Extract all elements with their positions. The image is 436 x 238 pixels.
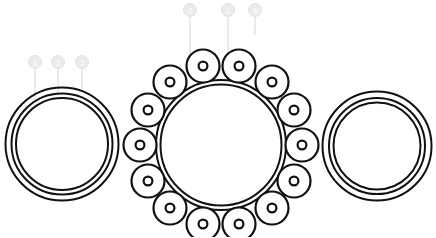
roller-10[interactable] (132, 165, 165, 198)
roller-12[interactable] (132, 94, 165, 127)
callout-label-1: 1 (32, 58, 37, 68)
roller-2[interactable] (256, 66, 289, 99)
bearing-diagram-root: 123456 (0, 0, 436, 237)
right-race-ring-3[interactable] (334, 103, 421, 190)
roller-4[interactable] (286, 129, 319, 162)
inner-race-ring-1[interactable] (156, 80, 286, 210)
roller-bore-9 (166, 204, 175, 213)
roller-element-group[interactable] (124, 50, 319, 238)
roller-9[interactable] (154, 192, 187, 225)
callout-label-2: 2 (55, 58, 60, 68)
callout-3[interactable]: 3 (76, 56, 89, 69)
roller-bore-4 (298, 141, 307, 150)
roller-5[interactable] (278, 165, 311, 198)
roller-bore-12 (144, 106, 153, 115)
roller-bore-13 (166, 78, 175, 87)
center-inner-race[interactable] (156, 80, 286, 210)
callout-1[interactable]: 1 (29, 56, 42, 69)
left-race-ring-2[interactable] (12, 94, 113, 195)
roller-11[interactable] (124, 129, 157, 162)
roller-bore-1 (235, 62, 244, 71)
roller-13[interactable] (154, 66, 187, 99)
right-race-ring-2[interactable] (329, 98, 425, 194)
roller-bore-2 (268, 78, 277, 87)
roller-bore-8 (199, 220, 208, 229)
callout-label-4: 4 (187, 6, 192, 16)
left-race-ring-3[interactable] (16, 98, 108, 190)
left-ring-assembly[interactable] (6, 88, 119, 201)
callout-label-3: 3 (79, 58, 84, 68)
roller-bore-14 (199, 62, 208, 71)
roller-7[interactable] (223, 208, 256, 238)
roller-6[interactable] (256, 192, 289, 225)
callout-5[interactable]: 5 (222, 4, 235, 17)
callout-4[interactable]: 4 (184, 4, 197, 17)
roller-bore-7 (235, 220, 244, 229)
roller-bore-10 (144, 177, 153, 186)
roller-3[interactable] (278, 94, 311, 127)
roller-bore-5 (290, 177, 299, 186)
left-race-ring-1[interactable] (6, 88, 119, 201)
inner-race-ring-2[interactable] (161, 85, 282, 206)
roller-14[interactable] (187, 50, 220, 83)
roller-bore-11 (136, 141, 145, 150)
callout-6[interactable]: 6 (249, 4, 262, 17)
callout-2[interactable]: 2 (52, 56, 65, 69)
right-race-ring-1[interactable] (323, 92, 432, 201)
callout-label-6: 6 (252, 6, 257, 16)
callout-label-5: 5 (225, 6, 230, 16)
roller-bore-6 (268, 204, 277, 213)
roller-bore-3 (290, 106, 299, 115)
right-ring-assembly[interactable] (323, 92, 432, 201)
roller-8[interactable] (187, 208, 220, 238)
diagram-canvas: 123456 (0, 0, 436, 237)
roller-1[interactable] (223, 50, 256, 83)
